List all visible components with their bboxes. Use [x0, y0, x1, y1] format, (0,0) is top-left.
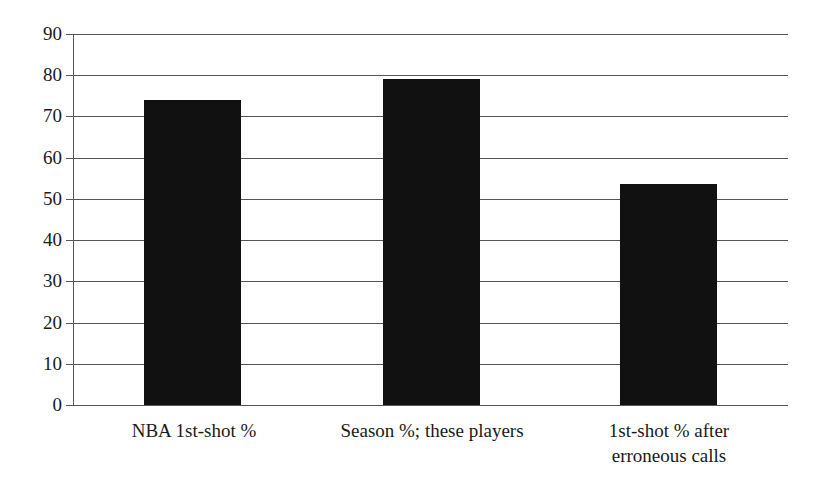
bar-season-these-players: [383, 79, 480, 405]
y-tick-label-50: 50: [18, 189, 62, 208]
bar-1st-shot-after-erroneous-calls: [620, 184, 717, 405]
x-label-2: 1st-shot % after erroneous calls: [569, 418, 769, 468]
y-tick-mark-80: [66, 75, 73, 76]
bar-chart-figure: 9080706050403020100 NBA 1st-shot % Seaso…: [0, 0, 822, 488]
plot-area: [73, 34, 788, 405]
y-tick-label-40: 40: [18, 230, 62, 249]
y-tick-mark-0: [66, 405, 73, 406]
y-tick-label-20: 20: [18, 313, 62, 332]
y-tick-mark-90: [66, 34, 73, 35]
y-tick-label-90: 90: [18, 24, 62, 43]
gridline-0: [73, 405, 788, 406]
y-tick-mark-50: [66, 199, 73, 200]
y-tick-mark-40: [66, 240, 73, 241]
x-label-0: NBA 1st-shot %: [94, 418, 294, 443]
y-tick-mark-10: [66, 364, 73, 365]
y-axis-tick-labels: 9080706050403020100: [14, 0, 62, 488]
y-tick-label-0: 0: [18, 395, 62, 414]
bar-nba-1st-shot: [144, 100, 241, 405]
y-tick-label-60: 60: [18, 148, 62, 167]
y-tick-label-80: 80: [18, 65, 62, 84]
x-label-1: Season %; these players: [332, 418, 532, 443]
y-tick-mark-60: [66, 158, 73, 159]
y-tick-label-10: 10: [18, 354, 62, 373]
y-tick-label-30: 30: [18, 271, 62, 290]
x-axis-category-labels: NBA 1st-shot % Season %; these players 1…: [0, 418, 822, 488]
y-tick-mark-20: [66, 323, 73, 324]
y-tick-mark-70: [66, 116, 73, 117]
y-tick-label-70: 70: [18, 106, 62, 125]
y-tick-mark-30: [66, 281, 73, 282]
